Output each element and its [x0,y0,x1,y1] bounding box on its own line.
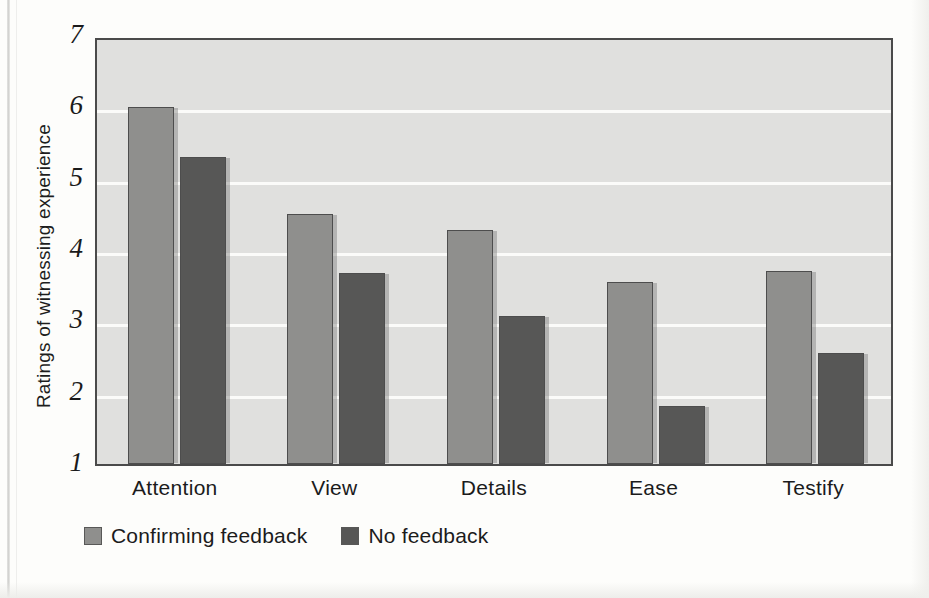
legend-label: Confirming feedback [111,524,307,548]
x-tick-label-view: View [255,476,415,500]
legend-entry-no-feedback: No feedback [341,524,488,548]
legend-swatch-icon [341,527,359,545]
y-tick-label-1: 1 [49,447,83,478]
bar-testify-no-feedback [818,353,864,464]
legend-label: No feedback [368,524,488,548]
bar-view-no-feedback [339,273,385,464]
bar-view-confirming-feedback [287,214,333,464]
y-tick-label-7: 7 [49,19,83,50]
x-tick-label-attention: Attention [95,476,255,500]
page-edge-artifact [7,0,10,598]
page-shadow-right [911,0,929,598]
bar-attention-no-feedback [180,157,226,464]
bar-ease-no-feedback [659,406,705,464]
y-tick-label-4: 4 [49,233,83,264]
page-edge-artifact-2 [16,0,17,598]
bar-testify-confirming-feedback [766,271,812,464]
bar-attention-confirming-feedback [128,107,174,464]
legend-entry-confirming-feedback: Confirming feedback [84,524,307,548]
bar-ease-confirming-feedback [607,282,653,464]
chart-legend: Confirming feedbackNo feedback [84,524,489,548]
y-tick-label-5: 5 [49,162,83,193]
bar-details-confirming-feedback [447,230,493,464]
x-tick-label-ease: Ease [574,476,734,500]
legend-swatch-icon [84,527,102,545]
x-tick-label-details: Details [414,476,574,500]
gridline [97,110,891,113]
plot-area [95,38,893,466]
y-tick-label-3: 3 [49,304,83,335]
page-shadow-bottom [0,582,929,598]
x-tick-label-testify: Testify [733,476,893,500]
y-tick-label-2: 2 [49,376,83,407]
bar-details-no-feedback [499,316,545,464]
figure-container: Ratings of witnessing experience 7 6 5 4… [0,0,929,598]
y-tick-label-6: 6 [49,90,83,121]
